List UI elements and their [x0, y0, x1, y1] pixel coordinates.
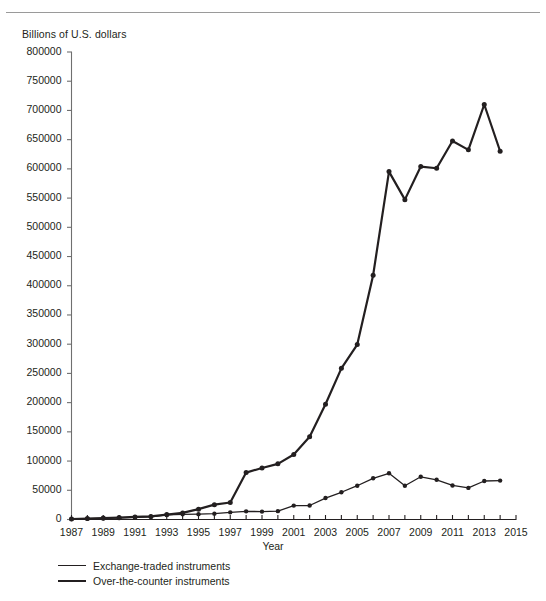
y-axis-tick-label: 700000: [0, 103, 62, 115]
series-data-point: [387, 169, 392, 174]
chart-page: Billions of U.S. dollars 050000100000150…: [0, 0, 546, 601]
series-data-point: [260, 465, 265, 470]
series-data-point: [323, 402, 328, 407]
legend-line-swatch-icon: [58, 580, 86, 582]
series-data-point: [164, 512, 169, 517]
series-data-point: [418, 164, 423, 169]
legend-item: Over-the-counter instruments: [58, 573, 230, 588]
series-data-point: [482, 102, 487, 107]
series-data-point: [387, 471, 391, 475]
series-data-point: [196, 512, 200, 516]
series-data-point: [228, 500, 233, 505]
series-data-point: [260, 509, 264, 513]
series-data-point: [450, 138, 455, 143]
series-data-point: [244, 470, 249, 475]
series-data-point: [275, 461, 280, 466]
y-axis-tick-label: 450000: [0, 249, 62, 261]
series-data-point: [212, 502, 217, 507]
series-data-point: [403, 484, 407, 488]
series-data-point: [244, 509, 248, 513]
chart-legend: Exchange-traded instrumentsOver-the-coun…: [58, 558, 230, 588]
series-data-point: [466, 486, 470, 490]
series-data-point: [434, 478, 438, 482]
series-data-point: [196, 507, 201, 512]
y-axis-tick-label: 350000: [0, 307, 62, 319]
series-data-point: [307, 434, 312, 439]
series-data-point: [371, 476, 375, 480]
x-axis-tick-label: 2015: [491, 526, 541, 538]
series-data-point: [148, 514, 153, 519]
y-axis-tick-label: 650000: [0, 132, 62, 144]
series-data-point: [355, 342, 360, 347]
series-data-point: [371, 273, 376, 278]
series-data-point: [339, 490, 343, 494]
series-data-point: [180, 510, 185, 515]
series-data-point: [307, 503, 311, 507]
series-data-point: [339, 366, 344, 371]
series-data-point: [482, 479, 486, 483]
line-chart-plot-area: [0, 0, 546, 601]
y-axis-tick-label: 600000: [0, 161, 62, 173]
y-axis-tick-label: 200000: [0, 395, 62, 407]
y-axis-tick-label: 300000: [0, 337, 62, 349]
series-data-point: [69, 516, 74, 521]
series-data-point: [117, 515, 122, 520]
y-axis-tick-label: 250000: [0, 366, 62, 378]
series-data-point: [402, 197, 407, 202]
x-axis-title: Year: [0, 540, 546, 552]
series-data-point: [85, 516, 90, 521]
series-data-point: [291, 452, 296, 457]
series-data-point: [434, 166, 439, 171]
y-axis-tick-label: 400000: [0, 278, 62, 290]
series-data-point: [419, 475, 423, 479]
y-axis-tick-label: 50000: [0, 483, 62, 495]
y-axis-tick-label: 500000: [0, 220, 62, 232]
series-data-point: [498, 149, 503, 154]
y-axis-tick-label: 750000: [0, 74, 62, 86]
series-data-point: [276, 509, 280, 513]
legend-line-swatch-icon: [58, 565, 86, 566]
y-axis-tick-label: 800000: [0, 45, 62, 57]
series-data-point: [466, 147, 471, 152]
series-data-point: [498, 478, 502, 482]
series-data-point: [355, 484, 359, 488]
series-data-point: [133, 514, 138, 519]
series-data-point: [292, 503, 296, 507]
y-axis-tick-label: 100000: [0, 454, 62, 466]
legend-item: Exchange-traded instruments: [58, 558, 230, 573]
series-data-point: [323, 496, 327, 500]
series-data-point: [450, 483, 454, 487]
legend-item-label: Exchange-traded instruments: [93, 560, 230, 572]
legend-item-label: Over-the-counter instruments: [93, 575, 230, 587]
y-axis-tick-label: 550000: [0, 191, 62, 203]
series-data-point: [101, 516, 106, 521]
y-axis-tick-label: 0: [0, 512, 62, 524]
y-axis-tick-label: 150000: [0, 424, 62, 436]
series-data-point: [212, 511, 216, 515]
series-data-point: [228, 510, 232, 514]
